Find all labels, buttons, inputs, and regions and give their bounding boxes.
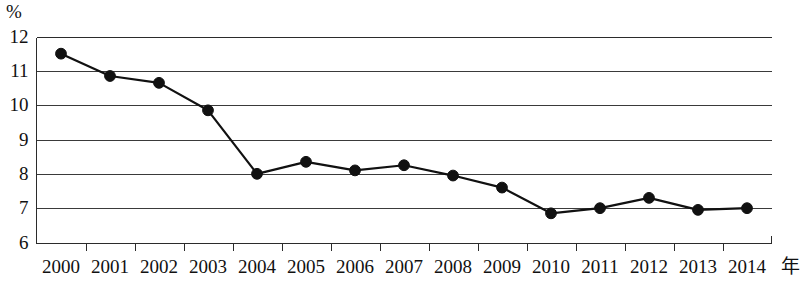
line-chart: % 1211109876 200020012002200320042005200…: [0, 0, 802, 288]
y-axis-tick-label: 9: [2, 130, 29, 149]
data-point-marker: [301, 156, 312, 167]
x-axis-unit-label: 年: [781, 257, 800, 276]
y-axis-tick-label: 7: [2, 198, 29, 217]
x-axis-tick-label: 2006: [331, 257, 380, 276]
data-point-marker: [105, 71, 116, 82]
x-axis-tick-label: 2005: [282, 257, 331, 276]
x-axis-tick-label: 2013: [674, 257, 723, 276]
data-series-line: [61, 54, 747, 214]
gridlines: [37, 38, 772, 209]
data-point-marker: [399, 160, 410, 171]
data-point-marker: [203, 105, 214, 116]
y-axis-tick-label: 11: [2, 61, 29, 80]
x-axis-tick-label: 2014: [723, 257, 772, 276]
plot-area: [0, 0, 802, 288]
x-axis-tick-label: 2011: [576, 257, 625, 276]
x-axis-tick-label: 2001: [86, 257, 135, 276]
y-axis-tick-label: 10: [2, 95, 29, 114]
x-axis-tickmarks: [87, 244, 724, 251]
y-axis-tick-label: 8: [2, 164, 29, 183]
data-point-markers: [56, 48, 753, 218]
data-point-marker: [497, 182, 508, 193]
data-point-marker: [154, 77, 165, 88]
y-axis-tick-label: 12: [2, 27, 29, 46]
x-axis-tick-label: 2007: [380, 257, 429, 276]
data-point-marker: [742, 203, 753, 214]
data-point-marker: [644, 192, 655, 203]
x-axis-tick-label: 2003: [184, 257, 233, 276]
data-point-marker: [546, 208, 557, 219]
data-point-marker: [56, 48, 67, 59]
x-axis-tick-label: 2004: [233, 257, 282, 276]
x-axis-tick-label: 2010: [527, 257, 576, 276]
x-axis-tick-label: 2002: [135, 257, 184, 276]
data-point-marker: [595, 203, 606, 214]
x-axis-tick-label: 2008: [429, 257, 478, 276]
series-polyline: [61, 54, 747, 214]
data-point-marker: [448, 170, 459, 181]
data-point-marker: [252, 168, 263, 179]
x-axis-tick-label: 2000: [37, 257, 86, 276]
x-axis-tick-label: 2009: [478, 257, 527, 276]
y-axis-tick-label: 6: [2, 233, 29, 252]
data-point-marker: [350, 165, 361, 176]
data-point-marker: [693, 204, 704, 215]
x-axis-tick-label: 2012: [625, 257, 674, 276]
